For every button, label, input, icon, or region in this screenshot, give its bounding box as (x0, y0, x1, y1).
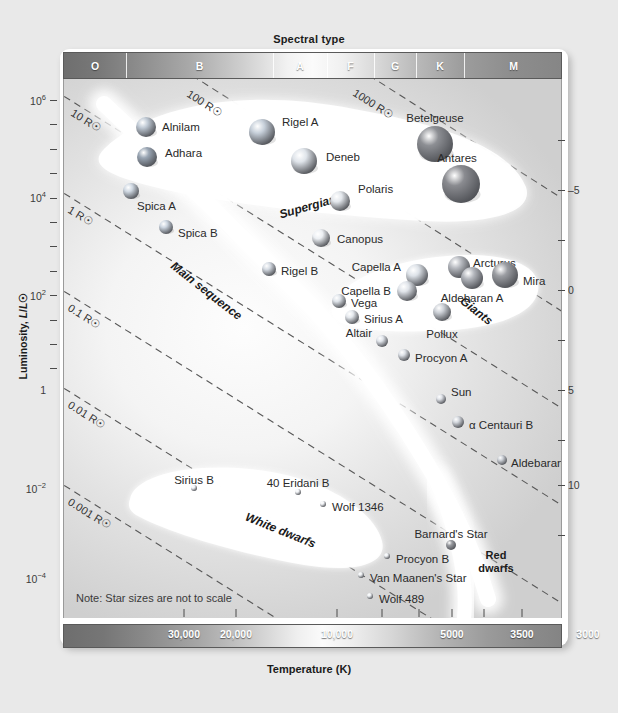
star-marker[interactable] (376, 335, 388, 347)
star-label: Adhara (165, 147, 203, 159)
star-marker[interactable] (332, 294, 346, 308)
star-label: Deneb (326, 151, 360, 163)
luminosity-tick-label: 10−2 (26, 481, 46, 495)
spectral-class-label: A (296, 60, 304, 72)
luminosity-tick-mark (50, 320, 57, 321)
star-label: Alnilam (162, 121, 200, 133)
luminosity-axis-title-text: Luminosity, L/L☉ (17, 293, 29, 380)
magnitude-tick-mark (558, 340, 565, 341)
absolute-magnitude-axis: Absolute magnitude, Mv –50510 (566, 0, 618, 713)
star-marker[interactable] (136, 117, 156, 137)
temperature-axis-title: Temperature (K) (0, 663, 618, 675)
star-marker[interactable] (358, 572, 364, 578)
temperature-tick-3500: 3500 (510, 628, 533, 640)
luminosity-tick-mark (50, 124, 57, 125)
star-marker[interactable] (345, 310, 359, 324)
star-marker[interactable] (137, 147, 157, 167)
magnitude-tick-mark (558, 290, 565, 291)
star-marker[interactable] (295, 489, 301, 495)
temperature-tick-20000: 20,000 (220, 628, 252, 640)
star-procyon-b[interactable]: Procyon B (384, 553, 449, 565)
star-rigel-b[interactable]: Rigel B (262, 262, 318, 277)
plot-svg: SupergiantsMain sequenceGiantsWhite dwar… (64, 79, 562, 618)
magnitude-tick-mark (558, 140, 565, 141)
luminosity-tick-mark (50, 222, 57, 223)
star-marker[interactable] (497, 455, 507, 465)
spectral-class-label: B (196, 60, 204, 72)
spectral-class-F: F (327, 53, 374, 78)
spectral-class-divider (374, 53, 375, 78)
spectral-class-G: G (374, 53, 416, 78)
magnitude-tick-mark (558, 240, 565, 241)
luminosity-tick-mark (50, 149, 57, 150)
star-label: Polaris (358, 183, 393, 195)
star-van-maanen-s-star[interactable]: Van Maanen's Star (358, 572, 467, 584)
spectral-class-label: M (509, 60, 518, 72)
star-label: Wolf 489 (379, 593, 424, 605)
star-label: Sirius A (364, 313, 403, 325)
magnitude-tick-label: –5 (568, 184, 580, 196)
luminosity-tick-mark (50, 173, 57, 174)
magnitude-tick-mark (558, 390, 565, 391)
star-label: Sun (451, 386, 471, 398)
star-marker[interactable] (452, 416, 464, 428)
spectral-type-bar: OBAFGKM (63, 52, 562, 79)
star-wolf-489[interactable]: Wolf 489 (367, 593, 424, 605)
star-marker[interactable] (461, 267, 483, 289)
star-label: α Centauri B (469, 419, 534, 431)
star-aldebaran-b[interactable]: Aldebaran B (497, 455, 562, 469)
luminosity-tick-label: 102 (30, 288, 46, 302)
spectral-class-A: A (273, 53, 327, 78)
star-label: Aldebaran B (511, 457, 562, 469)
star-marker[interactable] (123, 183, 139, 199)
luminosity-axis: Luminosity, L/L☉ 106104102110−210−4 (0, 0, 57, 713)
temperature-axis-bar: 30,00020,00010,000500035003000 (63, 624, 562, 648)
star-marker[interactable] (330, 191, 350, 211)
star-label: Capella B (341, 285, 391, 297)
star-sun[interactable]: Sun (436, 386, 471, 404)
star-marker[interactable] (442, 165, 480, 203)
temperature-tick-5000: 5000 (440, 628, 463, 640)
star-marker[interactable] (159, 220, 173, 234)
star-label: Mira (523, 275, 546, 287)
magnitude-tick-label: 10 (568, 479, 580, 491)
radius-label-0.01: 0.01 R☉ (66, 399, 108, 432)
star-canopus[interactable]: Canopus (312, 229, 383, 247)
spectral-class-O: O (64, 53, 126, 78)
magnitude-tick-mark (558, 535, 565, 536)
luminosity-tick-label: 104 (30, 190, 46, 204)
star-label: Procyon A (415, 352, 468, 364)
luminosity-tick-label: 106 (30, 93, 46, 107)
star-marker[interactable] (262, 262, 276, 276)
star-sirius-a[interactable]: Sirius A (345, 310, 403, 325)
star-marker[interactable] (433, 303, 451, 321)
star-marker[interactable] (249, 119, 275, 145)
star-marker[interactable] (436, 394, 446, 404)
star-marker[interactable] (446, 540, 456, 550)
luminosity-tick-label: 10−4 (26, 571, 46, 585)
star-marker[interactable] (312, 229, 330, 247)
star-marker[interactable] (397, 281, 417, 301)
star-procyon-a[interactable]: Procyon A (398, 349, 468, 364)
star-label: Aldebaran A (441, 292, 504, 304)
star-vega[interactable]: Vega (332, 294, 378, 309)
luminosity-tick-label: 1 (40, 384, 46, 396)
luminosity-tick-mark (50, 368, 57, 369)
spectral-type-title: Spectral type (0, 33, 618, 45)
star-marker[interactable] (367, 593, 373, 599)
star-label: Pollux (426, 328, 458, 340)
star-centauri-b[interactable]: α Centauri B (452, 416, 534, 431)
star-marker[interactable] (398, 349, 410, 361)
star-marker[interactable] (384, 553, 390, 559)
star-marker[interactable] (320, 501, 326, 507)
star-label: Antares (437, 152, 477, 164)
luminosity-tick-mark (50, 295, 57, 296)
spectral-class-divider (464, 53, 465, 78)
spectral-class-label: F (347, 60, 353, 72)
star-marker[interactable] (291, 148, 317, 174)
plot-area: SupergiantsMain sequenceGiantsWhite dwar… (63, 79, 562, 618)
luminosity-axis-title: Luminosity, L/L☉ (17, 266, 29, 406)
star-marker[interactable] (492, 262, 518, 288)
magnitude-tick-mark (558, 485, 565, 486)
star-label: Van Maanen's Star (370, 572, 467, 584)
